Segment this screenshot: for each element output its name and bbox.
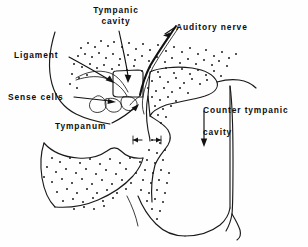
label-ligament: Ligament <box>14 50 58 61</box>
label-counter-tympanic-cavity: Counter tympanic cavity <box>203 105 301 138</box>
bottom-right-fork-right <box>232 214 240 240</box>
label-sense-cells: Sense cells <box>8 92 64 103</box>
mid-body-chamber <box>150 116 170 202</box>
label-tympanic-cavity: Tympanic cavity <box>86 5 146 27</box>
ligament-strand <box>76 71 128 92</box>
lower-left-descending-strand <box>127 196 138 226</box>
label-counter-tympanic-cavity-line2: cavity <box>203 127 301 138</box>
tympanum-leader <box>112 104 139 123</box>
counter-tympanic-outer-wall <box>217 80 256 88</box>
lower-left-tissue-top <box>44 143 143 158</box>
label-tympanic-cavity-line2: cavity <box>101 16 130 26</box>
ligament-leader <box>69 57 114 83</box>
lower-center-chamber-left <box>138 196 185 236</box>
nerve-branch-b <box>142 97 144 114</box>
lower-left-tissue-mass <box>41 143 55 207</box>
stipple-region-lower-center <box>140 139 170 220</box>
lower-left-tissue-bottom <box>55 158 143 207</box>
auditory-nerve-trunk <box>140 26 176 95</box>
label-counter-tympanic-cavity-line1: Counter tympanic <box>203 105 289 115</box>
tympanal-organ-figure: Tympanic cavity Auditory nerve Ligament … <box>0 0 308 247</box>
tympanum-tension-arrow-left <box>133 138 138 143</box>
tympanic-cavity-leader <box>119 31 131 83</box>
label-auditory-nerve: Auditory nerve <box>176 22 248 33</box>
label-tympanic-cavity-line1: Tympanic <box>93 5 139 15</box>
tympanum-tension-arrow-right <box>156 138 161 143</box>
lower-center-chamber-bottom <box>185 208 230 236</box>
label-tympanum: Tympanum <box>55 121 106 132</box>
